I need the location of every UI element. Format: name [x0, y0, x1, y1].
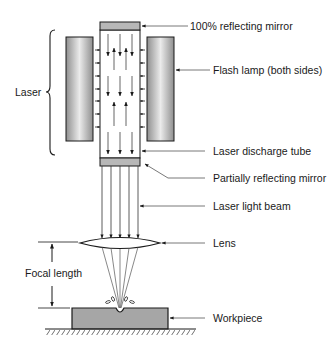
focused-beams — [102, 247, 138, 308]
partial-reflecting-mirror — [100, 158, 140, 166]
label-discharge-tube: Laser discharge tube — [213, 145, 311, 157]
laser-brace — [46, 30, 55, 155]
label-partial-mirror: Partially reflecting mirror — [213, 172, 327, 184]
label-lens: Lens — [213, 237, 236, 249]
label-beam: Laser light beam — [213, 200, 291, 212]
flash-lamp-left — [66, 37, 93, 141]
flash-lamp-right — [147, 37, 174, 141]
lens — [80, 238, 160, 249]
label-workpiece: Workpiece — [213, 312, 263, 324]
label-top-mirror: 100% reflecting mirror — [190, 20, 293, 32]
label-focal-length: Focal length — [25, 267, 82, 279]
label-flash-lamp: Flash lamp (both sides) — [213, 64, 322, 76]
laser-beams — [102, 166, 138, 238]
laser-machining-diagram: Focal length Laser 100% reflecting mirro… — [0, 0, 336, 348]
label-laser: Laser — [15, 86, 42, 98]
full-reflecting-mirror — [100, 22, 140, 30]
workpiece — [72, 308, 168, 329]
ground-hatch — [45, 330, 196, 335]
